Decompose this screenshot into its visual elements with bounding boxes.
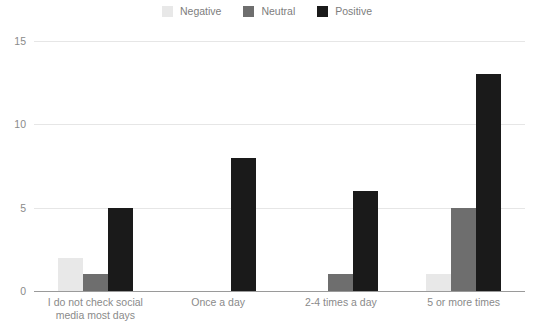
bar-slot-positive bbox=[353, 41, 378, 291]
chart-legend: Negative Neutral Positive bbox=[0, 6, 534, 17]
y-tick-label-15: 15 bbox=[0, 35, 26, 47]
bar-negative[interactable] bbox=[58, 258, 83, 291]
y-tick-label-0: 0 bbox=[0, 285, 26, 297]
bar-chart: Negative Neutral Positive 151050 I do no… bbox=[0, 0, 534, 333]
y-tick-label-5: 5 bbox=[0, 202, 26, 214]
bar-neutral[interactable] bbox=[328, 274, 353, 291]
x-axis-label: 2-4 times a day bbox=[280, 296, 403, 322]
bar-slot-positive bbox=[231, 41, 256, 291]
legend-label-positive: Positive bbox=[335, 6, 372, 17]
legend-item-positive[interactable]: Positive bbox=[317, 6, 372, 17]
plot-area: 151050 bbox=[34, 41, 525, 291]
bar-positive[interactable] bbox=[108, 208, 133, 291]
legend-item-neutral[interactable]: Neutral bbox=[243, 6, 295, 17]
bar-negative[interactable] bbox=[426, 274, 451, 291]
bar-slot-negative bbox=[303, 41, 328, 291]
bar-group bbox=[157, 41, 280, 291]
bar-neutral[interactable] bbox=[83, 274, 108, 291]
bar-slot-positive bbox=[476, 41, 501, 291]
legend-item-negative[interactable]: Negative bbox=[162, 6, 221, 17]
legend-swatch-neutral bbox=[243, 6, 254, 17]
x-axis-label: 5 or more times bbox=[402, 296, 525, 322]
bar-slot-negative bbox=[58, 41, 83, 291]
bar-neutral[interactable] bbox=[451, 208, 476, 291]
bar-positive[interactable] bbox=[231, 158, 256, 291]
bar-slot-neutral bbox=[206, 41, 231, 291]
bar-group bbox=[280, 41, 403, 291]
bar-slot-neutral bbox=[328, 41, 353, 291]
bar-slot-negative bbox=[426, 41, 451, 291]
legend-label-neutral: Neutral bbox=[261, 6, 295, 17]
bar-positive[interactable] bbox=[476, 74, 501, 291]
x-axis-labels: I do not check socialmedia most daysOnce… bbox=[34, 296, 525, 322]
bar-group bbox=[34, 41, 157, 291]
y-tick-label-10: 10 bbox=[0, 118, 26, 130]
legend-swatch-positive bbox=[317, 6, 328, 17]
bar-groups bbox=[34, 41, 525, 291]
x-axis-label: I do not check socialmedia most days bbox=[34, 296, 157, 322]
bar-slot-negative bbox=[181, 41, 206, 291]
bar-group bbox=[402, 41, 525, 291]
legend-swatch-negative bbox=[162, 6, 173, 17]
bar-slot-positive bbox=[108, 41, 133, 291]
legend-label-negative: Negative bbox=[180, 6, 221, 17]
bar-slot-neutral bbox=[83, 41, 108, 291]
bar-positive[interactable] bbox=[353, 191, 378, 291]
x-axis-label: Once a day bbox=[157, 296, 280, 322]
bar-slot-neutral bbox=[451, 41, 476, 291]
